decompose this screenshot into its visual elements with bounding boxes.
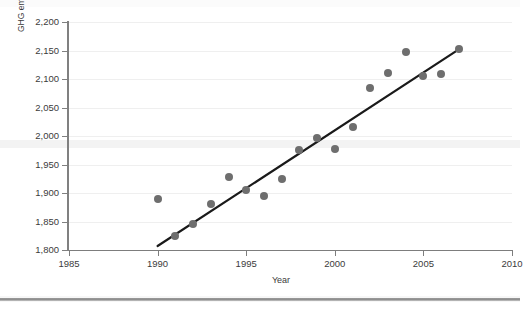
x-axis-tick (246, 251, 247, 256)
y-axis-tick (62, 250, 68, 251)
y-axis-tick-labels: 1,8001,8501,9001,9502,0002,0502,1002,150… (0, 0, 59, 315)
y-axis-tick (62, 22, 68, 23)
y-axis-title: GHG emissions per capita (in kg of CO2 e… (14, 0, 28, 36)
x-axis-tick-label: 2000 (324, 258, 345, 269)
data-point (402, 48, 410, 56)
data-point (349, 123, 357, 131)
x-axis-tick (158, 251, 159, 256)
x-axis-tick (69, 251, 70, 256)
y-axis-tick-label: 2,150 (35, 46, 59, 56)
data-point (278, 175, 286, 183)
y-axis-tick (62, 51, 68, 52)
y-axis-tick (62, 193, 68, 194)
y-axis-tick (62, 222, 68, 223)
x-axis-title: Year (0, 275, 520, 285)
x-axis-tick-label: 2010 (501, 258, 522, 269)
y-axis-title-pre: GHG emissions per capita (in kg of CO (16, 0, 26, 32)
x-axis-tick-label: 2005 (413, 258, 434, 269)
x-axis-tick (423, 251, 424, 256)
x-axis-line (67, 250, 513, 251)
x-axis-title-text: Year (272, 275, 290, 285)
y-axis-tick (62, 79, 68, 80)
y-axis-tick-label: 2,200 (35, 17, 59, 27)
y-axis-tick-label: 1,850 (35, 217, 59, 227)
data-point (331, 145, 339, 153)
y-axis-tick (62, 108, 68, 109)
x-axis-tick (335, 251, 336, 256)
x-axis-tick (512, 251, 513, 256)
y-axis-tick-label: 1,950 (35, 160, 59, 170)
page-background-band-top (0, 0, 520, 7)
y-axis-tick-label: 2,000 (35, 131, 59, 141)
y-axis-tick (62, 136, 68, 137)
data-point (437, 70, 445, 78)
data-point (313, 134, 321, 142)
data-point (366, 84, 374, 92)
x-axis-tick-label: 1995 (236, 258, 257, 269)
y-axis-tick-label: 1,800 (35, 245, 59, 255)
x-axis-tick-label: 1990 (147, 258, 168, 269)
trendline (69, 22, 512, 250)
x-axis-tick-label: 1985 (58, 258, 79, 269)
y-axis-tick (62, 165, 68, 166)
y-axis-tick-label: 1,900 (35, 188, 59, 198)
page-divider-rule (0, 298, 520, 301)
y-axis-tick-label: 2,050 (35, 103, 59, 113)
y-axis-tick-label: 2,100 (35, 74, 59, 84)
data-point (419, 72, 427, 80)
plot-area (69, 22, 512, 250)
data-point (242, 186, 250, 194)
data-point (225, 173, 233, 181)
data-point (154, 195, 162, 203)
